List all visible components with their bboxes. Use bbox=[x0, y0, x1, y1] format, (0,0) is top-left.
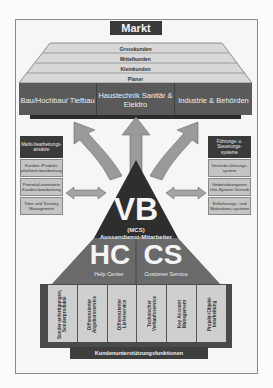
footer-label: Kundenunterstützungsfunktionen bbox=[70, 347, 208, 359]
support-function: Differenzierter Lieferservice bbox=[108, 285, 138, 342]
apex-sub1: (MCS) bbox=[92, 227, 180, 234]
right-panel: Führungs- u. Steuerungs-systeme Vertrieb… bbox=[208, 136, 251, 215]
support-function-label: Differenzierter Lieferservice bbox=[117, 288, 127, 340]
support-function-label: Key Account Management bbox=[177, 288, 187, 340]
support-function: Technischer Verkaufsservice bbox=[137, 285, 167, 342]
hc-label: Help Center bbox=[80, 271, 138, 277]
left-panel-header: Markt-bearbeitungs-ansätze bbox=[20, 136, 63, 158]
support-function: Key Account Management bbox=[167, 285, 197, 342]
right-panel-item: Gebietsbezogener Info-System Vertrieb bbox=[208, 178, 251, 196]
cs-abbr: CS bbox=[138, 241, 188, 269]
right-panel-item: Entlohnungs- und Motivations-systeme bbox=[208, 197, 251, 215]
right-panel-item: Vertriebs-führungs-system bbox=[208, 159, 251, 177]
support-function: Sonder-anfertigungen, Sonderprodukte bbox=[48, 285, 78, 342]
right-panel-header: Führungs- u. Steuerungs-systeme bbox=[208, 136, 251, 158]
support-function: Differenzierter Angebotsservice bbox=[78, 285, 108, 342]
support-function-label: Technischer Verkaufsservice bbox=[147, 288, 157, 340]
left-panel-item: Time und Territory Management bbox=[20, 197, 63, 215]
hc-abbr: HC bbox=[85, 241, 135, 269]
support-function-label: Projekt-/Objekt-bearbeitung bbox=[207, 288, 217, 340]
left-panel-item: Potential-orientierte Kunden-bearbeitung bbox=[20, 178, 63, 196]
left-panel: Markt-bearbeitungs-ansätze Kunden-/Produ… bbox=[20, 136, 63, 215]
left-panel-item: Kunden-/Produkt-plattform-bearbeitung bbox=[20, 159, 63, 177]
support-functions: Sonder-anfertigungen, Sonderprodukte Dif… bbox=[48, 285, 226, 342]
apex-abbr: VB bbox=[110, 193, 162, 225]
cs-label: Customer Service bbox=[136, 271, 196, 277]
support-function: Projekt-/Objekt-bearbeitung bbox=[197, 285, 226, 342]
support-function-label: Differenzierter Angebotsservice bbox=[87, 288, 97, 340]
support-function-label: Sonder-anfertigungen, Sonderprodukte bbox=[57, 288, 67, 340]
